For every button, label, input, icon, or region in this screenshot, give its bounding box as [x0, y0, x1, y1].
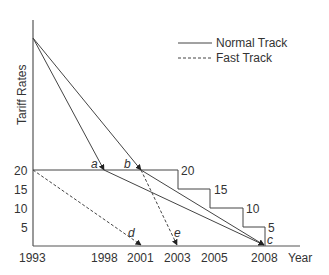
- y-tick-5: 5: [21, 221, 28, 235]
- x-tick-2008: 2008: [251, 251, 278, 265]
- step-label-20: 20: [181, 164, 195, 178]
- legend-normal-label: Normal Track: [216, 36, 288, 50]
- legend-fast-label: Fast Track: [216, 51, 273, 65]
- ceiling-staircase: [33, 170, 265, 246]
- point-label-a: a: [91, 157, 98, 171]
- tariff-chart: Normal Track Fast Track Tariff Rates 20 …: [0, 0, 329, 275]
- y-axis-title: Tariff Rates: [15, 65, 29, 125]
- point-label-c: c: [267, 233, 273, 247]
- point-label-e: e: [174, 226, 181, 240]
- step-label-10: 10: [246, 202, 260, 216]
- point-label-d: d: [128, 226, 135, 240]
- x-tick-1998: 1998: [91, 251, 118, 265]
- x-tick-1993: 1993: [19, 251, 46, 265]
- normal-track-a: [33, 38, 104, 170]
- normal-track-b: [33, 38, 141, 170]
- x-tick-2001: 2001: [127, 251, 154, 265]
- x-axis-title: Year: [288, 251, 312, 265]
- step-label-15: 15: [214, 183, 228, 197]
- y-tick-20: 20: [14, 164, 28, 178]
- x-tick-2003: 2003: [164, 251, 191, 265]
- fast-track-d: [33, 170, 141, 245]
- point-label-b: b: [124, 157, 131, 171]
- x-tick-2005: 2005: [201, 251, 228, 265]
- y-tick-10: 10: [14, 202, 28, 216]
- y-tick-15: 15: [14, 183, 28, 197]
